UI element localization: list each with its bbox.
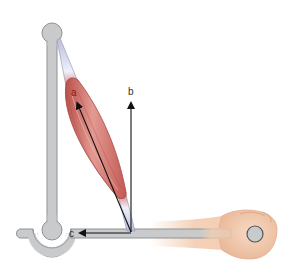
label-a: a <box>71 88 77 98</box>
diagram-canvas <box>0 0 294 273</box>
humerus-bar <box>42 23 62 224</box>
grip-handle <box>247 226 263 242</box>
elbow-joint <box>16 215 71 257</box>
lever-diagram: a b c <box>0 0 294 273</box>
label-b: b <box>128 87 134 97</box>
muscle-belly <box>57 38 135 231</box>
label-c: c <box>69 229 74 239</box>
